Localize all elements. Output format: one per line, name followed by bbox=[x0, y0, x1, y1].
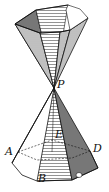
label-p: P bbox=[56, 78, 65, 91]
label-b: B bbox=[37, 172, 46, 185]
lower-opening bbox=[76, 173, 82, 178]
label-e: E bbox=[54, 128, 63, 141]
label-a: A bbox=[4, 145, 13, 158]
double-cone-diagram: P A B D E bbox=[0, 0, 109, 192]
label-d: D bbox=[92, 142, 102, 155]
upper-nappe bbox=[15, 5, 88, 88]
